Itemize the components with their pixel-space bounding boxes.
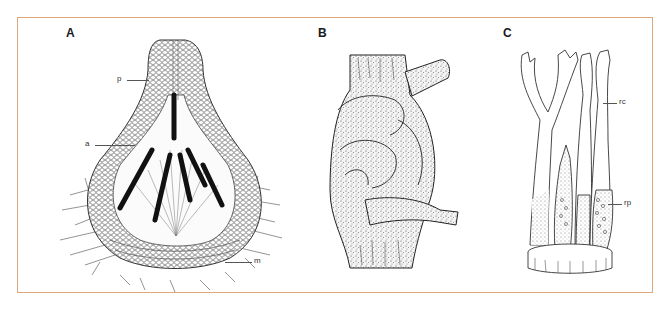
annotation-rp: rp [624, 198, 631, 207]
leader-rp [608, 204, 622, 205]
annotation-rc: rc [619, 97, 626, 106]
leader-rc [603, 103, 617, 104]
stromata-illustration [0, 0, 672, 310]
